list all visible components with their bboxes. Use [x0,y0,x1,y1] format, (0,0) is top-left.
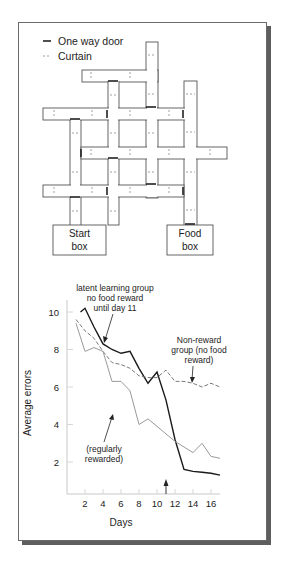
rewarded-annotation-line1: (regularly [86,444,122,454]
x-tick-label: 6 [118,498,123,509]
legend-one-way-door: One way door [58,35,124,47]
x-tick-label: 8 [136,498,141,509]
food-box-label: Food [179,228,202,239]
errors-line-chart: 246810246810121416 Days Average errors l… [22,283,227,528]
start-box-label: Start [69,228,90,239]
x-tick-label: 10 [152,498,163,509]
nonreward-annotation-line2: group (no food [171,345,227,355]
x-tick-label: 12 [170,498,181,509]
x-tick-label: 2 [82,498,87,509]
latent-pointer-arrow-icon [105,314,113,340]
legend-curtain: Curtain [58,50,92,62]
x-axis-label: Days [110,517,133,528]
y-tick-label: 2 [54,457,59,468]
arrowhead-icon [109,414,114,420]
x-tick-label: 16 [206,498,217,509]
latent-annotation-line1: latent learning group [76,283,154,293]
day-marker-arrow-icon [164,479,169,486]
food-box-label-2: box [182,241,198,252]
legend: One way door Curtain [43,35,124,62]
y-tick-label: 4 [54,419,59,430]
arrowhead-icon [103,336,108,343]
x-tick-label: 4 [100,498,105,509]
rewarded-annotation-line2: rewarded) [85,454,123,464]
latent-annotation-line2: no food reward [87,293,144,303]
y-axis-label: Average errors [22,370,33,436]
arrowhead-icon [190,377,195,383]
y-tick-label: 10 [48,307,59,318]
start-box-label-2: box [71,241,87,252]
figure-canvas: One way door Curtain [0,0,284,562]
nonreward-annotation-line1: Non-reward [177,335,222,345]
latent-annotation-line3: until day 11 [94,303,137,313]
rewarded-pointer-arrow-icon [104,417,112,442]
x-tick-label: 14 [188,498,199,509]
y-tick-label: 6 [54,382,59,393]
y-tick-label: 8 [54,344,59,355]
nonreward-annotation-line3: reward) [185,355,214,365]
maze-diagram: Start box Food box [43,42,227,255]
